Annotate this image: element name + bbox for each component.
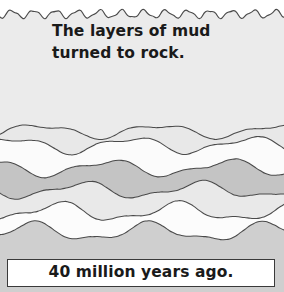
caption-text: 40 million years ago.: [49, 265, 234, 281]
caption-box: 40 million years ago.: [7, 259, 275, 287]
strata-diagram: [0, 0, 284, 292]
rock-strata-illustration: The layers of mud turned to rock. 40 mil…: [0, 0, 284, 292]
